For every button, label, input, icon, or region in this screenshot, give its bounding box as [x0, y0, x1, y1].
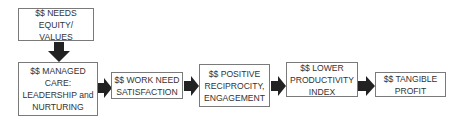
node-label: $$ MANAGED CARE: LEADERSHIP and NURTURIN… — [21, 65, 95, 113]
node-work-need: $$ WORK NEED SATISFACTION — [111, 72, 183, 99]
arrow-right-icon — [271, 76, 286, 96]
node-label: $$ POSITIVE RECIPROCITY, ENGAGEMENT — [202, 68, 267, 104]
node-label: $$ TANGIBLE PROFIT — [378, 73, 443, 97]
node-label: $$ NEEDS EQUITY/ VALUES — [21, 7, 91, 43]
node-label: $$ WORK NEED SATISFACTION — [114, 74, 180, 98]
arrow-right-icon — [98, 78, 112, 98]
node-managed-care: $$ MANAGED CARE: LEADERSHIP and NURTURIN… — [18, 62, 98, 116]
arrow-down-icon — [47, 42, 71, 62]
node-label: $$ LOWER PRODUCTIVITY INDEX — [289, 62, 355, 98]
node-tangible-profit: $$ TANGIBLE PROFIT — [375, 72, 446, 97]
arrow-right-icon — [358, 76, 375, 96]
node-lower-productivity: $$ LOWER PRODUCTIVITY INDEX — [286, 62, 358, 97]
arrow-right-icon — [184, 76, 199, 96]
node-positive-reciprocity: $$ POSITIVE RECIPROCITY, ENGAGEMENT — [199, 64, 270, 107]
node-needs-equity: $$ NEEDS EQUITY/ VALUES — [18, 8, 94, 41]
